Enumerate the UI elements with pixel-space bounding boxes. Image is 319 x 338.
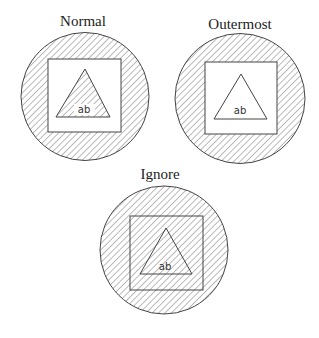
diagram-title: Ignore [140, 166, 179, 182]
text-label: ab [234, 105, 246, 116]
outer-circle-hatched [100, 186, 228, 314]
diagram-title: Normal [60, 13, 106, 29]
diagram-ignore: Ignore ab [100, 166, 228, 314]
text-label: ab [78, 104, 90, 115]
diagram-outermost: Outermost ab [175, 16, 305, 164]
diagram-normal: Normal ab [21, 13, 149, 161]
diagram-title: Outermost [208, 16, 272, 32]
hatch-styles-diagram: Normal ab Outermost ab Ignore ab [0, 0, 319, 338]
text-label: ab [159, 261, 171, 272]
